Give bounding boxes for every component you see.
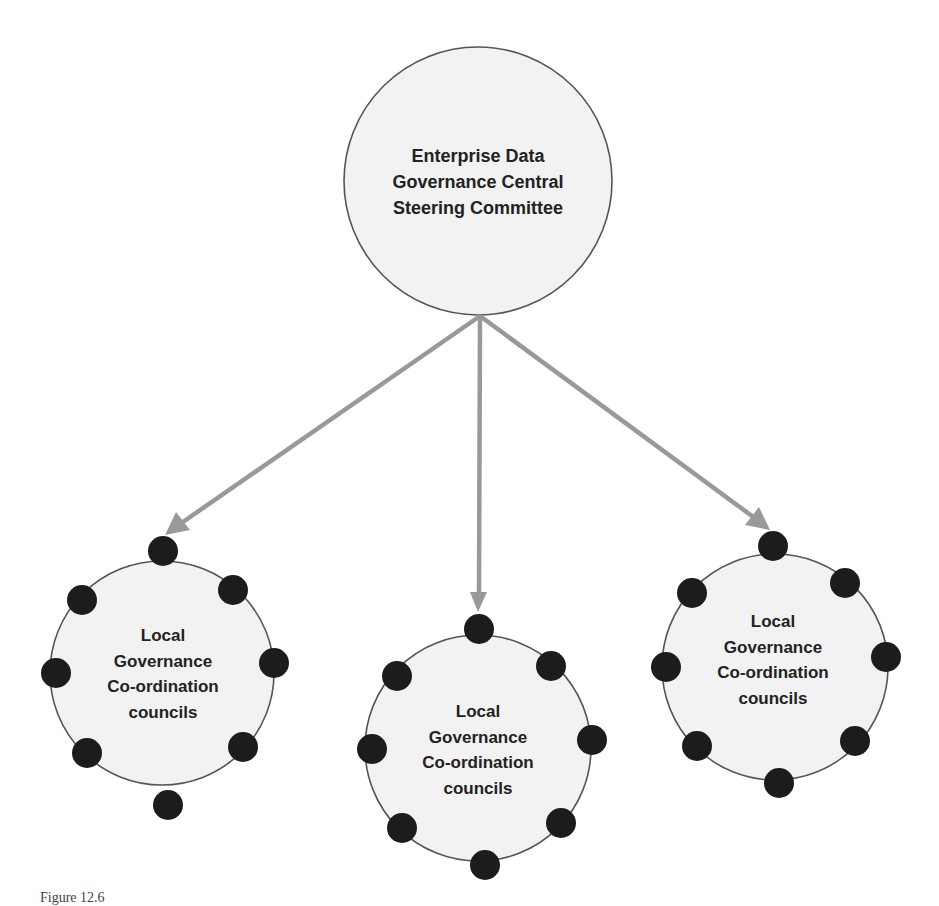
local-label-line: Co-ordination [717,660,828,686]
local-label-line: Governance [717,635,828,661]
central-label-line-1: Enterprise Data [392,143,563,169]
local-label-line: Governance [422,725,533,751]
local-council-label-left: Local Governance Co-ordination councils [107,623,218,725]
figure-caption: Figure 12.6 [40,890,105,906]
local-label-line: councils [107,700,218,726]
local-label-line: Co-ordination [422,750,533,776]
central-label-line-2: Governance Central [392,169,563,195]
arrowhead-icon [470,592,487,612]
local-label-line: Local [717,609,828,635]
local-label-line: Co-ordination [107,674,218,700]
arrow-to-left-council [165,316,480,535]
arrowhead-icon [745,507,770,530]
arrow-to-middle-council [470,316,487,612]
arrow-to-right-council [480,316,770,530]
local-label-line: Local [422,699,533,725]
local-council-label-middle: Local Governance Co-ordination councils [422,699,533,801]
local-label-line: councils [717,686,828,712]
local-label-line: councils [422,776,533,802]
local-council-label-right: Local Governance Co-ordination councils [717,609,828,711]
central-label-line-3: Steering Committee [392,195,563,221]
central-committee-label: Enterprise Data Governance Central Steer… [392,143,563,221]
arrowhead-icon [165,512,190,535]
local-label-line: Local [107,623,218,649]
local-label-line: Governance [107,649,218,675]
